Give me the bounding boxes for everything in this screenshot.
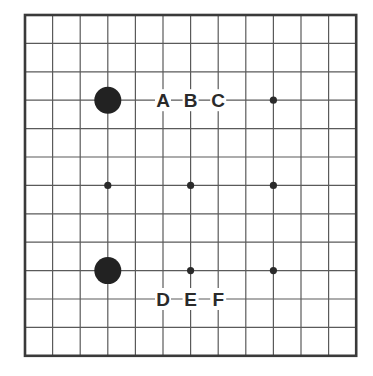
svg-text:D: D [156,289,170,310]
svg-text:E: E [184,289,197,310]
move-label-b: B [183,89,199,111]
black-stone-icon [94,257,121,284]
svg-text:A: A [156,90,170,111]
move-label-d: D [155,288,171,310]
move-label-a: A [155,89,171,111]
go-board: ABCDEF [0,0,373,376]
star-point-icon [104,182,111,189]
star-point-icon [187,267,194,274]
star-point-icon [187,182,194,189]
move-label-f: F [210,288,226,310]
star-point-icon [270,97,277,104]
svg-text:F: F [212,289,224,310]
star-point-icon [270,182,277,189]
black-stone-icon [94,87,121,114]
svg-text:B: B [184,90,198,111]
move-label-e: E [183,288,199,310]
move-label-c: C [210,89,226,111]
svg-text:C: C [211,90,225,111]
star-point-icon [270,267,277,274]
